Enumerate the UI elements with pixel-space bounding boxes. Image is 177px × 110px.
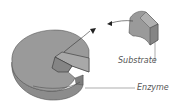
- substrate-label: Substrate: [118, 56, 157, 65]
- enzyme-shape: [12, 30, 89, 100]
- arrowhead-icon: [107, 21, 112, 26]
- arrowhead-icon: [90, 28, 96, 34]
- enzyme-label: Enzyme: [137, 83, 169, 92]
- substrate-shape: [129, 11, 158, 45]
- enzyme-diagram: [0, 0, 177, 110]
